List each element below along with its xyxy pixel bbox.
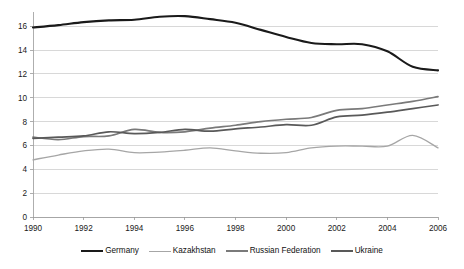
y-tick-label: 6 [22, 141, 27, 150]
y-tick-label: 0 [22, 213, 27, 222]
legend-swatch-icon [81, 250, 103, 252]
y-tick-label: 8 [22, 118, 27, 127]
x-tick-label: 1996 [176, 224, 195, 233]
x-tick-label: 2002 [328, 224, 347, 233]
y-tick-label: 14 [18, 46, 28, 55]
chart-legend: GermanyKazakhstanRussian FederationUkrai… [0, 243, 464, 259]
legend-label: Kazakhstan [173, 246, 216, 256]
line-chart: 0246810121416 19901992199419961998200020… [0, 0, 464, 269]
x-tick-label: 2006 [429, 224, 448, 233]
legend-swatch-icon [331, 250, 353, 252]
y-tick-label: 12 [18, 70, 28, 79]
series-line-germany [33, 16, 438, 70]
y-tick-label: 4 [22, 165, 27, 174]
x-axis-tick-labels: 199019921994199619982000200220042006 [24, 224, 448, 233]
legend-item-ukraine[interactable]: Ukraine [331, 246, 383, 256]
legend-swatch-icon [226, 250, 248, 252]
x-tick-label: 1990 [24, 224, 43, 233]
legend-item-kazakhstan[interactable]: Kazakhstan [149, 246, 216, 256]
y-tick-label: 10 [18, 94, 28, 103]
x-tick-label: 1994 [125, 224, 144, 233]
x-tick-label: 1998 [226, 224, 245, 233]
axes [30, 12, 438, 220]
data-series-lines [33, 16, 438, 160]
y-axis-tick-labels: 0246810121416 [18, 22, 28, 222]
y-tick-label: 2 [22, 189, 27, 198]
y-tick-label: 16 [18, 22, 28, 31]
series-line-russian-federation [33, 97, 438, 140]
x-tick-label: 2004 [378, 224, 397, 233]
legend-item-russian-federation[interactable]: Russian Federation [226, 246, 321, 256]
legend-label: Germany [105, 246, 139, 256]
legend-label: Ukraine [355, 246, 383, 256]
legend-label: Russian Federation [250, 246, 321, 256]
series-line-kazakhstan [33, 135, 438, 159]
legend-swatch-icon [149, 251, 171, 252]
legend-item-germany[interactable]: Germany [81, 246, 139, 256]
gridlines [33, 26, 438, 217]
chart-plot-area: 0246810121416 19901992199419961998200020… [0, 0, 464, 269]
x-tick-label: 1992 [75, 224, 94, 233]
x-tick-label: 2000 [277, 224, 296, 233]
